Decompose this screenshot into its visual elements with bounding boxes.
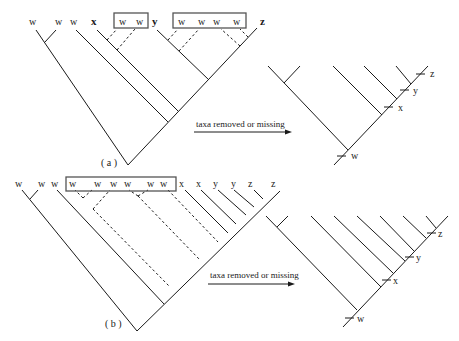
- leaf-label: w: [70, 16, 78, 27]
- panel-a-input-tree: [36, 28, 257, 165]
- mark-label-x: x: [393, 275, 398, 286]
- panel-a-input-labels: w w w x w w y w w w w z: [29, 13, 265, 28]
- phylogeny-figure: w w w x w w y w w w w z ( a ) taxa remov…: [0, 0, 459, 341]
- leaf-label-x: x: [196, 178, 201, 189]
- leaf-label: w: [51, 178, 59, 189]
- arrow-head-icon: [285, 130, 292, 135]
- leaf-label: w: [119, 16, 127, 27]
- leaf-label: w: [110, 178, 118, 189]
- leaf-label-x: x: [91, 15, 97, 27]
- panel-b-input-labels: w w w w w w w w w x x y y z z: [15, 177, 276, 191]
- leaf-label: w: [38, 178, 46, 189]
- mark-label-z: z: [438, 228, 443, 239]
- panel-b-input-tree: [22, 190, 280, 331]
- leaf-label: w: [213, 16, 221, 27]
- leaf-label-y: y: [152, 15, 158, 27]
- mark-label-w: w: [351, 150, 359, 161]
- mark-label-y: y: [413, 85, 418, 96]
- arrow-head-icon: [288, 282, 295, 287]
- leaf-label: w: [147, 178, 155, 189]
- leaf-label: w: [124, 178, 132, 189]
- panel-a-arrow: taxa removed or missing: [194, 119, 292, 135]
- leaf-label: w: [29, 16, 37, 27]
- panel-a-output-tree: w x y z: [268, 66, 435, 165]
- mark-label-w: w: [357, 313, 365, 324]
- leaf-label-y: y: [231, 178, 236, 189]
- leaf-label: w: [55, 16, 63, 27]
- arrow-label: taxa removed or missing: [210, 270, 299, 280]
- arrow-label: taxa removed or missing: [196, 119, 285, 129]
- leaf-label: w: [160, 178, 168, 189]
- leaf-label: w: [178, 16, 186, 27]
- leaf-label: w: [233, 16, 241, 27]
- leaf-label-y: y: [213, 178, 218, 189]
- panel-b-arrow: taxa removed or missing: [208, 270, 299, 287]
- leaf-label-x: x: [179, 178, 184, 189]
- leaf-label: w: [94, 178, 102, 189]
- leaf-label-z: z: [260, 15, 265, 27]
- panel-a-caption: ( a ): [101, 157, 117, 169]
- panel-b-caption: ( b ): [105, 318, 122, 330]
- leaf-label-z: z: [271, 178, 276, 189]
- leaf-label: w: [136, 16, 144, 27]
- leaf-label: w: [15, 178, 23, 189]
- leaf-label: w: [69, 178, 77, 189]
- mark-label-y: y: [416, 252, 421, 263]
- leaf-label: w: [198, 16, 206, 27]
- mark-label-z: z: [430, 68, 435, 79]
- mark-label-x: x: [398, 102, 403, 113]
- leaf-label-z: z: [248, 178, 253, 189]
